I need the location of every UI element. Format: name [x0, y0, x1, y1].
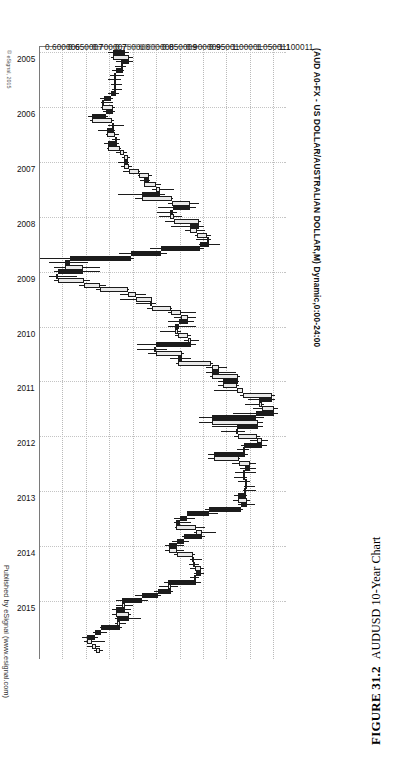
- current-price-marker-label: 0.77600: [127, 43, 157, 52]
- candlestick-body-up: [142, 196, 172, 201]
- candlestick-body-up: [197, 233, 207, 238]
- candlestick-wick: [136, 303, 157, 304]
- candlestick-body-up: [144, 182, 156, 187]
- candlestick-body-up: [223, 383, 237, 388]
- candlestick-body-up: [178, 361, 212, 366]
- gridline-horizontal: [226, 47, 227, 659]
- candlestick-body-up: [58, 278, 84, 283]
- candlestick-wick: [152, 189, 175, 190]
- candlestick-wick: [160, 331, 181, 332]
- candlestick-body-up: [178, 333, 188, 338]
- candlestick-body-up: [84, 283, 100, 288]
- gridline-vertical: [40, 381, 286, 382]
- candlestick-wick: [157, 212, 177, 213]
- candlestick-body-up: [100, 287, 128, 292]
- candlestick-body-up: [136, 297, 151, 302]
- figure-caption: FIGURE 31.2AUDUSD 10-Year Chart: [368, 536, 384, 745]
- gridline-vertical: [40, 601, 286, 602]
- candlestick-body-down: [241, 502, 247, 507]
- gridline-vertical: [40, 546, 286, 547]
- candlestick-wick: [168, 326, 196, 327]
- chart-credit: Published by eSignal (www.esignal.com): [2, 565, 11, 698]
- candlestick-body-up: [238, 434, 257, 439]
- candlestick-wick: [221, 431, 245, 432]
- candlestick-body-down: [237, 424, 258, 429]
- candlestick-wick: [115, 623, 127, 624]
- candlestick-body-down: [180, 516, 187, 521]
- gridline-horizontal: [86, 47, 87, 659]
- candlestick-body-up: [92, 118, 113, 123]
- candlestick-wick: [206, 372, 236, 373]
- candlestick-body-down: [196, 571, 201, 576]
- candlestick-body-down: [131, 251, 161, 256]
- gridline-horizontal: [39, 47, 40, 659]
- candlestick-body-down: [70, 256, 130, 261]
- year-tick-label: 2014: [17, 549, 35, 558]
- candlestick-body-down: [187, 511, 209, 516]
- candlestick-body-down: [58, 269, 83, 274]
- candlestick-body-down: [168, 580, 196, 585]
- candlestick-body-up: [214, 456, 238, 461]
- candlestick-wick: [108, 125, 124, 126]
- figure-caption-text: AUDUSD 10-Year Chart: [369, 536, 383, 659]
- candlestick-wick: [137, 349, 167, 350]
- gridline-vertical: [40, 327, 286, 328]
- candlestick-body-down: [111, 91, 116, 96]
- candlestick-body-down: [256, 411, 274, 416]
- figure-number: FIGURE 31.2: [368, 666, 383, 745]
- candlestick-body-up: [129, 169, 139, 174]
- gridline-horizontal: [250, 47, 251, 659]
- candlestick-body-down: [142, 593, 158, 598]
- candlestick-body-down: [209, 507, 241, 512]
- candlestick-body-down: [122, 598, 141, 603]
- caption-area: FIGURE 31.2AUDUSD 10-Year Chart: [358, 0, 404, 767]
- candlestick-body-down: [244, 443, 262, 448]
- candlestick-body-down: [101, 625, 119, 630]
- candlestick-body-down: [161, 246, 200, 251]
- price-tick-label: 0.600006: [45, 43, 80, 52]
- year-tick-label: 2010: [17, 330, 35, 339]
- year-tick-label: 2015: [17, 604, 35, 613]
- gridline-horizontal: [273, 47, 274, 659]
- candlestick-body-down: [106, 109, 113, 114]
- year-tick-label: 2009: [17, 275, 35, 284]
- candlestick-body-down: [173, 205, 190, 210]
- candlestick-body-up: [108, 146, 120, 151]
- gridline-horizontal: [62, 47, 63, 659]
- year-tick-label: 2012: [17, 439, 35, 448]
- candlestick-body-up: [176, 525, 196, 530]
- figure-page: (AUD A0-FX - US DOLLAR/AUSTRALIAN DOLLAR…: [0, 0, 404, 767]
- esignal-chart: (AUD A0-FX - US DOLLAR/AUSTRALIAN DOLLAR…: [0, 0, 330, 700]
- candlestick-body-down: [184, 534, 202, 539]
- year-tick-label: 2006: [17, 110, 35, 119]
- candlestick-body-down: [95, 630, 102, 635]
- gridline-vertical: [40, 162, 286, 163]
- year-tick-label: 2005: [17, 55, 35, 64]
- candlestick-body-up: [152, 306, 171, 311]
- candlestick-body-down: [179, 319, 187, 324]
- candlestick-wick: [235, 472, 255, 473]
- candlestick-body-down: [104, 96, 111, 101]
- candlestick-body-up: [171, 310, 180, 315]
- gridline-vertical: [40, 52, 286, 53]
- candlestick-body-down: [156, 342, 191, 347]
- candlestick-body-up: [96, 648, 100, 653]
- year-tick-label: 2013: [17, 494, 35, 503]
- chart-title: (AUD A0-FX - US DOLLAR/AUSTRALIAN DOLLAR…: [312, 48, 322, 347]
- year-tick-label: 2011: [17, 384, 35, 393]
- gridline-horizontal: [133, 47, 134, 659]
- candlestick-wick: [184, 340, 199, 341]
- candlestick-body-up: [169, 548, 177, 553]
- chart-copyright: © eSignal, 2015: [6, 50, 12, 88]
- candlestick-wick: [49, 276, 76, 277]
- candlestick-body-up: [128, 292, 136, 297]
- gridline-vertical: [40, 107, 286, 108]
- candlestick-body-down: [200, 242, 208, 247]
- candlestick-wick: [110, 75, 124, 76]
- candlestick-body-up: [177, 552, 192, 557]
- candlestick-body-down: [158, 589, 172, 594]
- rotated-chart-wrapper: (AUD A0-FX - US DOLLAR/AUSTRALIAN DOLLAR…: [0, 0, 330, 700]
- year-tick-label: 2007: [17, 165, 35, 174]
- year-tick-label: 2008: [17, 220, 35, 229]
- candlestick-body-down: [116, 68, 123, 73]
